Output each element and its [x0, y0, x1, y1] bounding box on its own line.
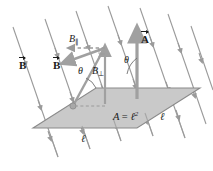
- area-equation-exponent: 2: [135, 110, 139, 118]
- label-b-field-left: B: [19, 60, 26, 71]
- label-b-field-left-text: B: [19, 60, 26, 71]
- label-b-field-mid-text: B: [53, 60, 60, 71]
- physics-figure-magnetic-flux: B B B∥ B⊥ A θ θ A = ℓ2 ℓ ℓ: [0, 0, 213, 171]
- magnetic-field-lines-back: [13, 6, 213, 157]
- label-b-perpendicular-subscript: ⊥: [98, 70, 104, 78]
- field-line-7: [191, 26, 213, 90]
- label-b-field-mid: B: [53, 60, 60, 71]
- label-theta-right: θ: [124, 55, 129, 65]
- label-b-perpendicular: B⊥: [92, 66, 104, 78]
- label-theta-left-text: θ: [78, 65, 83, 76]
- figure-canvas: [0, 0, 213, 171]
- area-equation-equals: =: [122, 111, 128, 122]
- label-side-length-right: ℓ: [160, 112, 164, 123]
- label-area-vector-text: A: [141, 34, 149, 45]
- label-b-parallel-subscript: ∥: [75, 38, 79, 46]
- label-b-parallel: B∥: [69, 34, 79, 46]
- field-line-6: [168, 14, 206, 124]
- label-area-equation: A = ℓ2: [113, 111, 138, 123]
- label-side-length-bottom-text: ℓ: [81, 133, 85, 144]
- label-side-length-right-text: ℓ: [160, 111, 164, 122]
- label-area-vector: A: [141, 34, 149, 45]
- label-side-length-bottom: ℓ: [81, 134, 85, 145]
- area-equation-lhs: A: [113, 111, 119, 122]
- label-theta-right-text: θ: [124, 54, 129, 65]
- label-theta-left: θ: [78, 66, 83, 76]
